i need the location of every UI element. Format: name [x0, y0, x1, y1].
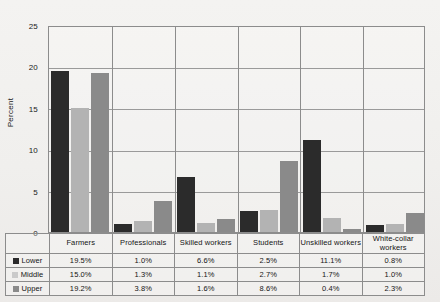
category-divider [238, 27, 239, 232]
bar-group [49, 27, 112, 232]
table-cell: 1.3% [112, 268, 175, 282]
bar [240, 211, 258, 232]
table-cell: 3.8% [112, 282, 175, 296]
legend-entry[interactable]: Middle [6, 268, 50, 282]
table-cell: 19.2% [50, 282, 113, 296]
category-divider [300, 27, 301, 232]
y-tick-label: 5 [33, 187, 38, 196]
table-cell: 1.6% [175, 282, 238, 296]
table-row: Lower19.5%1.0%6.6%2.5%11.1%0.8% [6, 254, 425, 268]
plot-area [48, 26, 425, 233]
bar [71, 108, 89, 232]
bar [323, 218, 341, 232]
table-cell: 8.6% [237, 282, 300, 296]
bar [154, 201, 172, 232]
table-cell: 1.0% [112, 254, 175, 268]
legend-label: Lower [22, 256, 43, 265]
bar [197, 223, 215, 232]
chart-figure: Percent 0510152025 FarmersProfessionalsS… [0, 0, 440, 302]
y-tick-label: 15 [29, 104, 38, 113]
table-cell: 11.1% [300, 254, 363, 268]
bar [303, 140, 321, 232]
data-table: FarmersProfessionalsSkilled workersStude… [5, 233, 425, 296]
bar [134, 221, 152, 232]
table-cell: 1.7% [300, 268, 363, 282]
table-column-header: Unskilled workers [300, 234, 363, 254]
bar-group [238, 27, 301, 232]
bar [280, 161, 298, 232]
table-cell: 2.3% [362, 282, 425, 296]
table-cell: 2.5% [237, 254, 300, 268]
table-column-header: Farmers [50, 234, 113, 254]
legend-entry[interactable]: Upper [6, 282, 50, 296]
bar [406, 213, 424, 232]
table-row: Upper19.2%3.8%1.6%8.6%0.4%2.3% [6, 282, 425, 296]
legend-swatch-icon [13, 258, 19, 264]
bar-group [112, 27, 175, 232]
bar [366, 225, 384, 232]
table-column-header: Skilled workers [175, 234, 238, 254]
table-cell: 1.0% [362, 268, 425, 282]
bar-group [363, 27, 426, 232]
y-tick-label: 20 [29, 63, 38, 72]
legend-label: Upper [22, 284, 43, 293]
table-cell: 0.4% [300, 282, 363, 296]
table-cell: 0.8% [362, 254, 425, 268]
table-corner-cell [6, 234, 50, 254]
table-cell: 15.0% [50, 268, 113, 282]
category-divider [112, 27, 113, 232]
legend-swatch-icon [12, 272, 18, 278]
bar-group [175, 27, 238, 232]
bar-group [300, 27, 363, 232]
y-tick-label: 25 [29, 22, 38, 31]
legend-data-table: FarmersProfessionalsSkilled workersStude… [5, 233, 425, 295]
table-cell: 1.1% [175, 268, 238, 282]
table-column-header: Professionals [112, 234, 175, 254]
legend-entry[interactable]: Lower [6, 254, 50, 268]
category-divider [175, 27, 176, 232]
y-axis-tick-labels: 0510152025 [0, 26, 44, 233]
legend-swatch-icon [13, 286, 19, 292]
y-tick-label: 10 [29, 146, 38, 155]
bar [114, 224, 132, 232]
bar [51, 71, 69, 232]
bar [260, 210, 278, 232]
category-divider [363, 27, 364, 232]
bar [177, 177, 195, 232]
table-header-row: FarmersProfessionalsSkilled workersStude… [6, 234, 425, 254]
legend-label: Middle [21, 270, 44, 279]
bar [217, 219, 235, 232]
table-cell: 19.5% [50, 254, 113, 268]
table-column-header: Students [237, 234, 300, 254]
table-cell: 6.6% [175, 254, 238, 268]
bar [91, 73, 109, 232]
bar [343, 229, 361, 232]
table-row: Middle15.0%1.3%1.1%2.7%1.7%1.0% [6, 268, 425, 282]
bar [386, 224, 404, 232]
table-cell: 2.7% [237, 268, 300, 282]
table-column-header: White-collar workers [362, 234, 425, 254]
